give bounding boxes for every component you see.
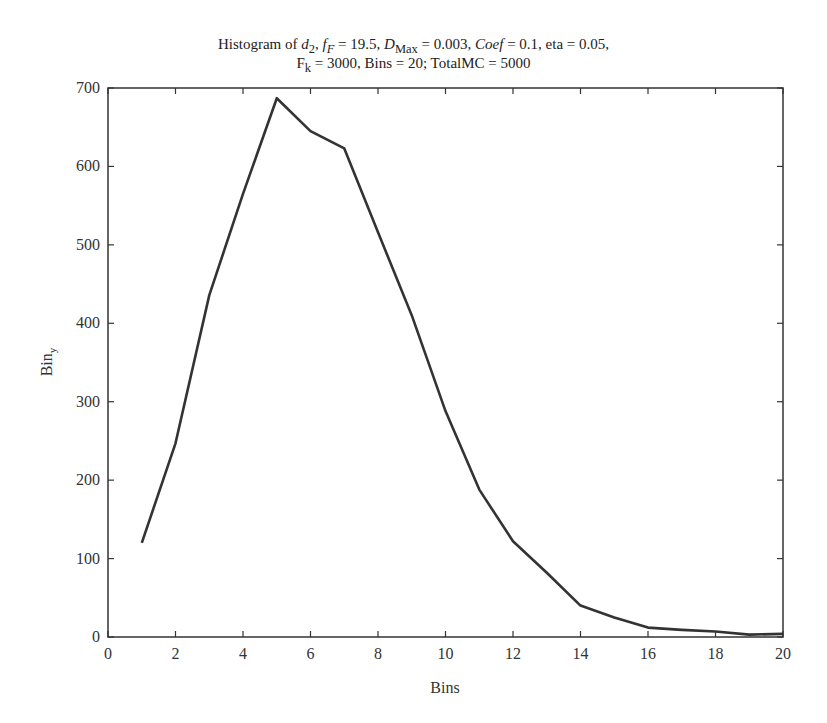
data-series [142,98,783,634]
y-tick-label: 0 [92,628,100,645]
x-tick-label: 8 [374,645,382,662]
line-chart: 02468101214161820 0100200300400500600700… [0,0,827,723]
y-tick-label: 300 [76,393,100,410]
x-tick-label: 6 [307,645,315,662]
y-axis-label: Biny [38,347,58,376]
x-axis-label: Bins [430,679,459,696]
series-line [142,98,783,634]
axes-frame [108,88,783,637]
y-tick-label: 400 [76,314,100,331]
y-tick-label: 600 [76,157,100,174]
x-tick-label: 16 [640,645,656,662]
x-tick-label: 4 [239,645,247,662]
x-tick-label: 10 [438,645,454,662]
plot-area-border [108,88,783,637]
x-tick-label: 14 [573,645,589,662]
x-tick-label: 12 [505,645,521,662]
x-tick-label: 0 [104,645,112,662]
x-axis-ticks: 02468101214161820 [104,88,791,662]
y-tick-label: 700 [76,79,100,96]
y-tick-label: 500 [76,236,100,253]
x-tick-label: 20 [775,645,791,662]
y-axis-label-subscript: y [46,347,58,353]
x-tick-label: 18 [708,645,724,662]
y-axis-label-main: Bin [38,353,55,376]
y-tick-label: 200 [76,471,100,488]
y-tick-label: 100 [76,550,100,567]
x-tick-label: 2 [172,645,180,662]
